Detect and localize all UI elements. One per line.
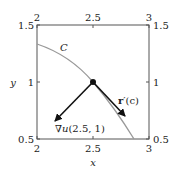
top-tick-label: 3 — [146, 12, 152, 23]
gradient-label: ∇u(2.5, 1) — [55, 123, 105, 134]
x-tick-label: 2 — [34, 143, 40, 154]
y-tick-label: 1 — [28, 77, 34, 88]
curve-label: C — [60, 42, 68, 53]
point-marker — [90, 79, 96, 85]
tangent-label: r′(c) — [118, 95, 139, 106]
level-curve-diagram: 2 2.5 3 2 2.5 3 x 1.5 1 0.5 y 1.5 1 0.5 … — [0, 0, 176, 176]
x-tick-label: 3 — [146, 143, 152, 154]
y-axis-label: y — [9, 77, 16, 88]
top-tick-label: 2.5 — [85, 12, 101, 23]
top-tick-label: 2 — [34, 12, 40, 23]
right-tick-label: 1.5 — [153, 20, 169, 31]
y-tick-label: 1.5 — [18, 20, 34, 31]
right-tick-label: 0.5 — [153, 134, 169, 145]
x-tick-label: 2.5 — [85, 143, 101, 154]
gradient-vector-arrow — [55, 82, 93, 121]
x-axis-label: x — [90, 157, 96, 168]
y-tick-label: 0.5 — [18, 134, 34, 145]
right-tick-label: 1 — [153, 77, 159, 88]
